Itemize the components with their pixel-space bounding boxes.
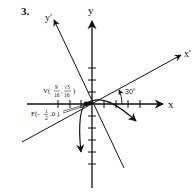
y-prime-axis-label: y' bbox=[45, 12, 52, 23]
y-axis-label: y bbox=[88, 4, 94, 16]
rotated-axes-parabola-diagram: 3. y x x' y' 3 bbox=[0, 0, 195, 192]
svg-text:F(-: F(- bbox=[31, 110, 40, 118]
vertex-label: V( 9 16 , √3 16 ) bbox=[43, 84, 76, 98]
focus-label: F(- 1 2 ,0 ) bbox=[31, 108, 60, 121]
svg-text:16: 16 bbox=[64, 92, 70, 98]
parabola-right-branch bbox=[92, 100, 136, 121]
svg-text:): ) bbox=[73, 87, 76, 95]
svg-text:√3: √3 bbox=[64, 84, 70, 90]
svg-text:9: 9 bbox=[55, 84, 58, 90]
angle-arc bbox=[119, 90, 122, 104]
svg-text:2: 2 bbox=[45, 115, 48, 121]
x-prime-axis bbox=[22, 55, 181, 142]
svg-text:,: , bbox=[61, 87, 63, 95]
svg-text:16: 16 bbox=[54, 92, 60, 98]
svg-text:1: 1 bbox=[45, 108, 48, 114]
svg-text:V(: V( bbox=[43, 87, 51, 95]
svg-text:,0 ): ,0 ) bbox=[50, 110, 60, 118]
x-axis-label: x bbox=[168, 98, 174, 110]
x-prime-axis-label: x' bbox=[184, 48, 191, 59]
problem-number: 3. bbox=[21, 5, 30, 17]
vertex-point bbox=[88, 101, 92, 105]
angle-label: 30° bbox=[125, 88, 136, 95]
